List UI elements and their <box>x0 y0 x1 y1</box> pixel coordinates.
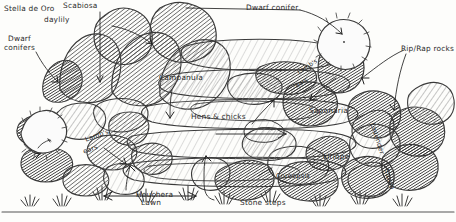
plant-stella-daylily-blob <box>150 2 216 62</box>
plant-scabiosa-blob <box>94 8 152 65</box>
label-daylily: daylily <box>44 15 70 24</box>
label-liriope: Liriope <box>323 152 349 161</box>
label-hens-and-chicks: Hens & chicks <box>191 112 246 121</box>
label-coreopsis: Coreopsis <box>276 172 310 181</box>
label-stella-de-oro: Stella de Oro <box>4 4 55 13</box>
label-dwarf-conifers-line2: conifers <box>4 43 35 52</box>
garden-plan-sketch: Stella de Oro daylily Scabiosa Dwarf con… <box>0 0 456 222</box>
label-dwarf-conifer-top: Dwarf conifer <box>246 3 298 12</box>
label-stone-steps: Stone steps <box>240 198 286 207</box>
label-lawn: Lawn <box>141 198 161 207</box>
label-rip-rap-rocks: Rip/Rap rocks <box>401 44 454 53</box>
label-scabiosa: Scabiosa <box>63 1 98 10</box>
label-dwarf-conifers-line1: Dwarf <box>8 34 31 43</box>
label-saponaria: Saponaria <box>309 106 348 115</box>
label-campanula: Campanula <box>159 73 203 82</box>
